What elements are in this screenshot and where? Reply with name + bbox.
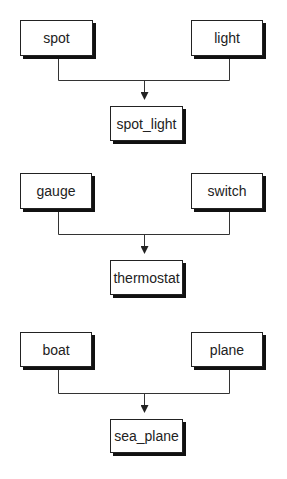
node-label: switch	[208, 183, 247, 199]
connector-group-1	[59, 56, 230, 99]
node-label: spot_light	[117, 116, 177, 132]
node-sea-plane: sea_plane	[110, 419, 183, 453]
node-gauge: gauge	[20, 173, 92, 209]
node-label: thermostat	[113, 270, 179, 286]
node-label: spot	[43, 30, 69, 46]
node-plane: plane	[191, 332, 263, 367]
node-label: sea_plane	[114, 428, 179, 444]
node-spot: spot	[20, 20, 93, 56]
node-label: gauge	[37, 183, 76, 199]
connector-group-2	[59, 209, 230, 253]
connector-lines	[0, 0, 287, 479]
node-spot-light: spot_light	[110, 106, 183, 141]
node-boat: boat	[20, 332, 92, 367]
connector-group-3	[59, 367, 230, 412]
node-label: light	[214, 30, 240, 46]
node-thermostat: thermostat	[110, 260, 183, 295]
node-label: plane	[210, 342, 244, 358]
node-light: light	[191, 20, 263, 56]
node-switch: switch	[191, 173, 263, 209]
node-label: boat	[42, 342, 69, 358]
